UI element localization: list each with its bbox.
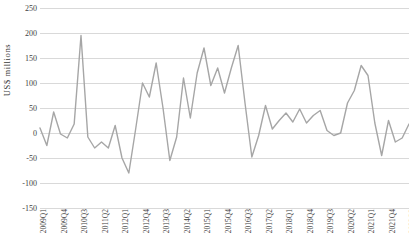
x-axis-tick-label: 2012Q4 (143, 209, 151, 233)
x-axis-tick-label: 2015Q1 (204, 209, 212, 233)
x-axis-tick-label: 2020Q2 (348, 209, 356, 233)
y-axis-tick-labels: 250200150100500-50-100-150 (14, 0, 40, 237)
x-axis-tick-label: 2021Q1 (368, 209, 376, 233)
x-axis-tick-label: 2009Q4 (61, 209, 69, 233)
x-axis-tick-label: 2015Q4 (225, 209, 233, 233)
x-axis-tick-label: 2021Q4 (389, 209, 397, 233)
y-axis-title-label: US$ millions (2, 44, 12, 96)
data-series-line (40, 8, 409, 208)
x-axis-tick-label: 2014Q2 (184, 209, 192, 233)
x-axis-tick-label: 2010Q3 (81, 209, 89, 233)
chart-container: US$ millions 250200150100500-50-100-150 … (0, 0, 409, 237)
y-axis-tick-label: 150 (25, 54, 37, 63)
y-axis-tick-label: 200 (25, 29, 37, 38)
x-axis-tick-label: 2019Q3 (327, 209, 335, 233)
y-axis-tick-label: 250 (25, 4, 37, 13)
y-axis-tick-label: -50 (26, 154, 37, 163)
x-axis-tick-label: 2011Q2 (102, 209, 110, 233)
y-axis-tick-label: -100 (22, 179, 37, 188)
x-axis-tick-label: 2016Q3 (245, 209, 253, 233)
y-axis-tick-label: 100 (25, 79, 37, 88)
series-polyline (40, 36, 409, 174)
x-axis-tick-label: 2018Q4 (307, 209, 315, 233)
x-axis-tick-labels: 2009Q12009Q42010Q32011Q22012Q12012Q42013… (40, 208, 409, 237)
x-axis-tick-label: 2009Q1 (40, 209, 48, 233)
y-axis-title: US$ millions (0, 0, 14, 140)
y-axis-tick-label: -150 (22, 204, 37, 213)
x-axis-tick-label: 2018Q1 (286, 209, 294, 233)
x-axis-tick-label: 2013Q3 (163, 209, 171, 233)
y-axis-tick-label: 0 (33, 129, 37, 138)
x-axis-tick-label: 2017Q2 (266, 209, 274, 233)
x-axis-tick-label: 2012Q1 (122, 209, 130, 233)
y-axis-tick-label: 50 (29, 104, 37, 113)
plot-area (40, 8, 409, 208)
